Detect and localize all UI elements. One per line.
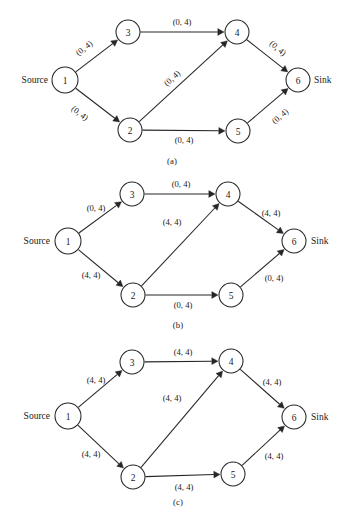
node-label-1: 1 bbox=[66, 412, 71, 422]
graph-svg-c: (4, 4)(4, 4)(4, 4)(4, 4)(4, 4)(4, 4)(4, … bbox=[0, 342, 354, 523]
node-label-3: 3 bbox=[130, 190, 135, 200]
node-1[interactable]: 1 bbox=[55, 228, 81, 254]
edge-label-5-6: (0, 4) bbox=[270, 106, 291, 126]
diagram-panel-a: (0, 4)(0, 4)(0, 4)(0, 4)(0, 4)(0, 4)(0, … bbox=[0, 0, 354, 175]
edge-label-2-4: (4, 4) bbox=[163, 217, 182, 227]
graph-svg-b: (0, 4)(4, 4)(0, 4)(4, 4)(0, 4)(4, 4)(0, … bbox=[0, 170, 354, 342]
node-label-4: 4 bbox=[229, 357, 234, 367]
edge-label-1-2: (4, 4) bbox=[82, 449, 101, 459]
node-label-3: 3 bbox=[130, 358, 135, 368]
edge-5-to-6: (0, 4) bbox=[240, 249, 284, 286]
edge-2-to-5: (0, 4) bbox=[143, 127, 226, 145]
node-4[interactable]: 4 bbox=[225, 20, 249, 44]
node-label-4: 4 bbox=[235, 28, 240, 38]
arrow-head-icon bbox=[219, 127, 225, 134]
edge-label-5-6: (4, 4) bbox=[265, 451, 284, 461]
source-label: Source bbox=[24, 411, 50, 421]
node-label-3: 3 bbox=[126, 28, 131, 38]
network-flow-figure: (0, 4)(0, 4)(0, 4)(0, 4)(0, 4)(0, 4)(0, … bbox=[0, 0, 354, 523]
node-5[interactable]: 5 bbox=[221, 462, 245, 486]
edge-5-to-6: (4, 4) bbox=[242, 426, 284, 466]
node-3[interactable]: 3 bbox=[120, 182, 144, 206]
arrow-head-icon bbox=[212, 292, 218, 299]
arrow-head-icon bbox=[111, 40, 118, 46]
node-3[interactable]: 3 bbox=[116, 20, 140, 44]
arrow-head-icon bbox=[212, 358, 218, 365]
node-1[interactable]: 1 bbox=[55, 403, 81, 429]
graph-svg-a: (0, 4)(0, 4)(0, 4)(0, 4)(0, 4)(0, 4)(0, … bbox=[0, 0, 354, 175]
diagram-panel-b: (0, 4)(4, 4)(0, 4)(4, 4)(0, 4)(4, 4)(0, … bbox=[0, 170, 354, 342]
arrow-head-icon bbox=[209, 191, 215, 198]
edge-3-to-4: (4, 4) bbox=[145, 347, 219, 365]
edge-label-2-5: (0, 4) bbox=[175, 135, 194, 145]
edge-3-to-4: (0, 4) bbox=[145, 179, 216, 197]
node-label-2: 2 bbox=[131, 291, 136, 301]
node-1[interactable]: 1 bbox=[52, 67, 78, 93]
node-label-1: 1 bbox=[66, 237, 71, 247]
node-5[interactable]: 5 bbox=[226, 119, 250, 143]
edge-4-to-6: (4, 4) bbox=[240, 369, 284, 408]
node-4[interactable]: 4 bbox=[216, 182, 240, 206]
node-3[interactable]: 3 bbox=[120, 350, 144, 374]
diagram-panel-c: (4, 4)(4, 4)(4, 4)(4, 4)(4, 4)(4, 4)(4, … bbox=[0, 342, 354, 523]
edge-1-to-3: (0, 4) bbox=[74, 38, 118, 72]
edge-label-3-4: (0, 4) bbox=[172, 179, 191, 189]
edge-2-to-4: (4, 4) bbox=[142, 203, 220, 285]
arrow-head-icon bbox=[116, 280, 123, 287]
source-label: Source bbox=[24, 236, 50, 246]
edge-2-to-5: (0, 4) bbox=[146, 292, 219, 310]
node-4[interactable]: 4 bbox=[219, 349, 243, 373]
edge-2-to-4: (4, 4) bbox=[141, 371, 223, 468]
node-label-2: 2 bbox=[131, 473, 136, 483]
node-2[interactable]: 2 bbox=[121, 283, 145, 307]
sink-label: Sink bbox=[311, 412, 329, 422]
arrow-head-icon bbox=[115, 202, 122, 208]
edge-2-to-4: (0, 4) bbox=[139, 41, 227, 122]
node-label-6: 6 bbox=[292, 237, 297, 247]
edge-label-3-4: (0, 4) bbox=[173, 17, 192, 27]
node-5[interactable]: 5 bbox=[219, 283, 243, 307]
edge-label-1-2: (0, 4) bbox=[70, 103, 91, 122]
node-label-5: 5 bbox=[236, 127, 241, 137]
sink-label: Sink bbox=[314, 75, 332, 85]
node-2[interactable]: 2 bbox=[118, 118, 142, 142]
edge-label-2-4: (4, 4) bbox=[163, 393, 182, 403]
arrow-head-icon bbox=[113, 116, 120, 122]
edge-label-1-3: (0, 4) bbox=[74, 38, 95, 57]
node-label-5: 5 bbox=[231, 470, 236, 480]
edge-label-1-3: (0, 4) bbox=[87, 203, 106, 213]
node-label-5: 5 bbox=[229, 291, 234, 301]
node-6[interactable]: 6 bbox=[286, 68, 310, 92]
edge-3-to-4: (0, 4) bbox=[141, 17, 225, 35]
panel-caption-c: (c) bbox=[173, 497, 183, 507]
arrow-head-icon bbox=[276, 227, 283, 233]
node-label-6: 6 bbox=[292, 413, 297, 423]
edge-4-to-6: (4, 4) bbox=[238, 201, 283, 233]
arrow-head-icon bbox=[214, 471, 220, 478]
edge-1-to-3: (4, 4) bbox=[78, 370, 122, 407]
edge-label-2-5: (4, 4) bbox=[175, 482, 194, 492]
edge-label-1-2: (4, 4) bbox=[82, 270, 101, 280]
edge-4-to-6: (0, 4) bbox=[247, 38, 289, 72]
node-label-1: 1 bbox=[63, 76, 68, 86]
node-6[interactable]: 6 bbox=[282, 405, 306, 429]
edge-1-to-2: (4, 4) bbox=[78, 250, 123, 287]
edge-label-4-6: (4, 4) bbox=[263, 377, 282, 387]
edge-label-3-4: (4, 4) bbox=[174, 347, 193, 357]
node-2[interactable]: 2 bbox=[121, 465, 145, 489]
edge-label-2-5: (0, 4) bbox=[174, 300, 193, 310]
source-label: Source bbox=[22, 75, 48, 85]
node-label-2: 2 bbox=[128, 126, 133, 136]
edge-1-to-2: (4, 4) bbox=[78, 425, 124, 468]
edge-5-to-6: (0, 4) bbox=[248, 88, 291, 125]
arrow-head-icon bbox=[218, 29, 224, 36]
edge-1-to-2: (0, 4) bbox=[70, 88, 120, 123]
edge-label-1-3: (4, 4) bbox=[87, 375, 106, 385]
node-label-4: 4 bbox=[226, 190, 231, 200]
sink-label: Sink bbox=[311, 236, 329, 246]
panel-caption-a: (a) bbox=[167, 156, 177, 166]
edge-label-4-6: (0, 4) bbox=[268, 38, 289, 58]
edge-1-to-3: (0, 4) bbox=[79, 202, 122, 233]
edge-2-to-5: (4, 4) bbox=[145, 471, 220, 492]
node-6[interactable]: 6 bbox=[282, 229, 306, 253]
